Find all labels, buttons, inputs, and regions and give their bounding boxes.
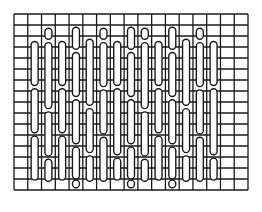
stitch-loop	[45, 112, 52, 156]
stitch-loop	[72, 53, 79, 97]
stitch-loop	[141, 159, 148, 181]
stitch-loop	[100, 137, 107, 181]
stitch-loop	[86, 156, 93, 181]
stitch-loop	[155, 89, 162, 133]
stitch-loop	[114, 158, 121, 180]
stitch-loop	[169, 100, 176, 144]
stitch-loop	[183, 109, 190, 153]
stitch-loop	[59, 42, 66, 86]
stitch-loop	[210, 42, 217, 86]
stitch-loop	[169, 180, 176, 188]
stitch-loop	[72, 100, 79, 144]
stitch-loop	[196, 28, 203, 39]
stitch-loop	[210, 89, 217, 155]
stitch-loop	[45, 43, 52, 109]
stitch-loop	[196, 90, 203, 134]
stitch-loop	[155, 136, 162, 180]
stitch-loop	[100, 43, 107, 87]
stitch-loop	[114, 89, 121, 155]
stitch-loop	[72, 180, 79, 188]
stitch-loop	[100, 28, 107, 39]
stitch-loop	[169, 27, 176, 49]
stitch-loop	[45, 28, 52, 39]
stitch-loop	[155, 42, 162, 86]
stitch-loop	[169, 147, 176, 179]
stitch-loop	[210, 158, 217, 180]
stitch-loop	[196, 137, 203, 181]
stitch-loop	[196, 43, 203, 87]
stitch-loop	[59, 89, 66, 133]
stitch-loop	[183, 156, 190, 181]
stitch-loop	[169, 53, 176, 97]
stitch-loop	[141, 28, 148, 39]
stitch-loop	[86, 109, 93, 153]
stitch-loop	[31, 89, 38, 133]
stitch-loop	[183, 39, 190, 105]
stitch-loop	[31, 136, 38, 180]
stitch-loop	[59, 136, 66, 180]
stitch-loop	[128, 147, 135, 179]
stitch-loop	[100, 90, 107, 134]
stitch-loop	[31, 42, 38, 86]
stitch-loop	[72, 147, 79, 179]
stitch-loop	[86, 39, 93, 105]
stitch-loop	[128, 180, 135, 188]
stitch-loop	[114, 42, 121, 86]
stitch-loop	[128, 100, 135, 144]
stitch-loop	[141, 112, 148, 156]
stitch-loop	[141, 43, 148, 109]
stitch-loop	[72, 27, 79, 49]
stitch-loop	[128, 53, 135, 97]
stitch-loop	[45, 159, 52, 181]
stitch-diagram	[0, 0, 262, 212]
stitch-loop	[128, 27, 135, 49]
